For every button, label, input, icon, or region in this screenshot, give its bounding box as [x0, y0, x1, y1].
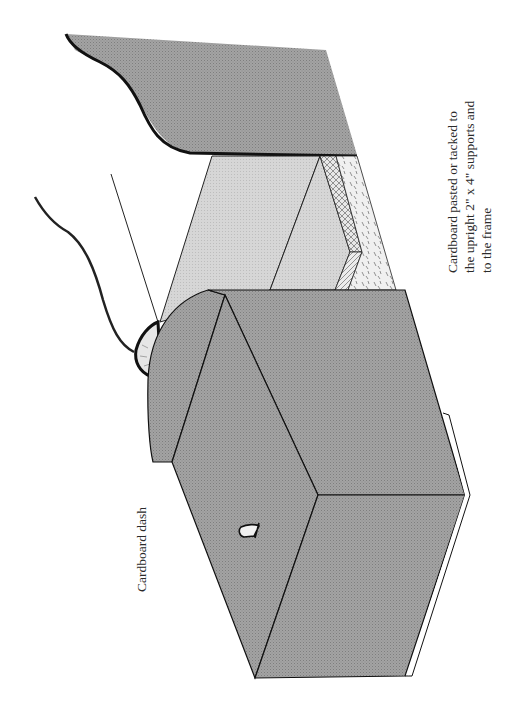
pointer-line: [111, 174, 158, 322]
dash-body: [148, 290, 470, 678]
top-cardboard-panel: [66, 34, 357, 156]
support-annotation: Cardboard pasted or tacked to the uprigh…: [444, 101, 495, 273]
support-annotation-line-2: the upright 2" x 4" supports and: [461, 101, 478, 273]
support-annotation-line-1: Cardboard pasted or tacked to: [444, 101, 461, 273]
support-annotation-line-3: to the frame: [478, 101, 495, 273]
cardboard-dash-label-text: Cardboard dash: [133, 507, 150, 592]
cardboard-dash-label: Cardboard dash: [133, 507, 150, 592]
wire: [35, 197, 134, 352]
